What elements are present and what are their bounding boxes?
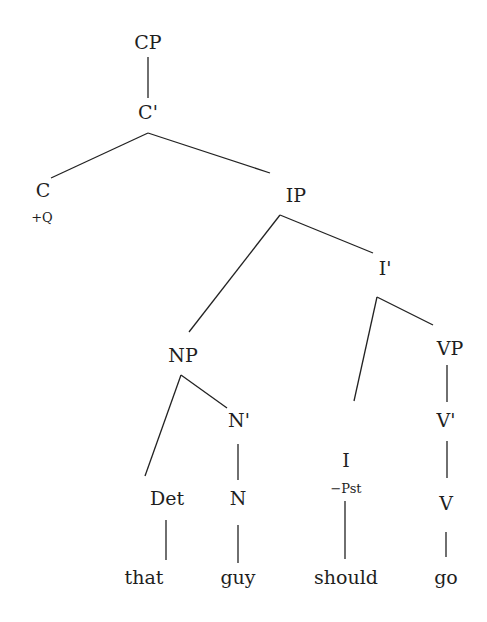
edge-ip-ibar bbox=[280, 215, 373, 253]
leaf-that: that bbox=[125, 566, 164, 588]
feature-minus-pst: −Pst bbox=[330, 481, 362, 496]
edge-np-det bbox=[145, 375, 181, 476]
feature-plus-q: +Q bbox=[31, 210, 53, 225]
node-i: I bbox=[342, 449, 350, 471]
node-i-bar: I' bbox=[379, 257, 392, 279]
node-n: N bbox=[230, 487, 247, 509]
node-c-bar: C' bbox=[138, 101, 158, 123]
node-v: V bbox=[438, 492, 453, 514]
edge-ibar-i bbox=[354, 297, 377, 401]
node-c: C bbox=[36, 179, 51, 201]
edge-cbar-ip bbox=[148, 133, 270, 173]
node-ip: IP bbox=[286, 184, 307, 206]
node-v-bar: V' bbox=[436, 409, 456, 431]
leaf-go: go bbox=[434, 566, 458, 588]
leaf-guy: guy bbox=[220, 566, 255, 588]
syntax-tree: CP C' C +Q IP I' NP VP N' V' Det N I −Ps… bbox=[0, 0, 487, 622]
edge-cbar-c bbox=[51, 133, 148, 178]
node-det: Det bbox=[150, 487, 184, 509]
leaf-should: should bbox=[314, 566, 378, 588]
edge-ip-np bbox=[189, 215, 280, 332]
tree-leaves: that guy should go bbox=[125, 566, 458, 588]
node-n-bar: N' bbox=[228, 409, 250, 431]
tree-edges bbox=[51, 57, 447, 563]
tree-nodes: CP C' C +Q IP I' NP VP N' V' Det N I −Ps… bbox=[31, 31, 463, 514]
edge-np-nbar bbox=[181, 375, 227, 408]
node-vp: VP bbox=[436, 337, 464, 359]
edge-ibar-vp bbox=[377, 297, 433, 325]
node-cp: CP bbox=[134, 31, 162, 53]
node-np: NP bbox=[168, 344, 198, 366]
